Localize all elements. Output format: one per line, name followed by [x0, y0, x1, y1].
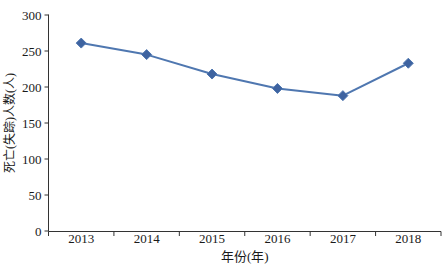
y-tick-label: 100 — [22, 152, 42, 167]
x-axis-title: 年份(年) — [221, 249, 269, 264]
line-chart-figure: 0501001502002503002013201420152016201720… — [0, 0, 445, 274]
data-line — [81, 43, 408, 96]
data-point-marker — [338, 91, 348, 101]
x-tick-label: 2016 — [264, 231, 291, 246]
y-tick-label: 250 — [22, 44, 42, 59]
x-tick-label: 2015 — [199, 231, 225, 246]
y-tick-label: 50 — [29, 188, 42, 203]
x-tick-label: 2017 — [330, 231, 357, 246]
data-point-marker — [76, 38, 86, 48]
y-tick-label: 300 — [22, 8, 42, 23]
y-axis-title: 死亡(失踪)人数(人) — [2, 73, 17, 173]
line-chart: 0501001502002503002013201420152016201720… — [0, 0, 445, 274]
y-tick-label: 150 — [22, 116, 42, 131]
data-point-marker — [272, 83, 282, 93]
y-tick-label: 200 — [22, 80, 42, 95]
x-tick-label: 2018 — [395, 231, 421, 246]
data-point-marker — [142, 50, 152, 60]
x-tick-label: 2013 — [68, 231, 94, 246]
x-tick-label: 2014 — [134, 231, 161, 246]
data-point-marker — [207, 69, 217, 79]
data-point-marker — [403, 58, 413, 68]
y-tick-label: 0 — [35, 224, 42, 239]
